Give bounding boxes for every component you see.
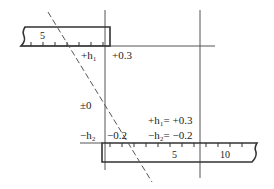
label-zero: ±0 <box>80 100 92 111</box>
top-ruler-label-5: 5 <box>40 30 45 41</box>
top-ruler <box>21 27 110 46</box>
bottom-ruler <box>102 143 257 162</box>
label-eq-h2: −h₂= −0.2 <box>148 130 192 141</box>
label-minus-h2: −h₂ <box>80 130 96 141</box>
dashed-diagonal-line <box>48 12 152 182</box>
label-eq-h1: +h₁= +0.3 <box>148 115 192 126</box>
bottom-ruler-label-5: 5 <box>172 149 177 160</box>
tolerance-diagram <box>0 0 274 189</box>
bottom-ruler-label-10: 10 <box>220 149 230 160</box>
label-minus-0-2: −0.2 <box>107 130 127 141</box>
label-plus-0-3: +0.3 <box>112 50 132 61</box>
label-plus-h1: +h₁ <box>81 50 97 61</box>
